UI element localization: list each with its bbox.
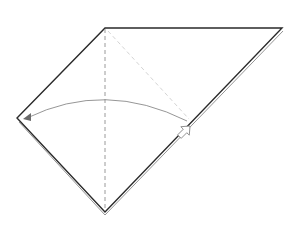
origami-diagram bbox=[0, 0, 299, 237]
paper-shape bbox=[17, 28, 282, 212]
